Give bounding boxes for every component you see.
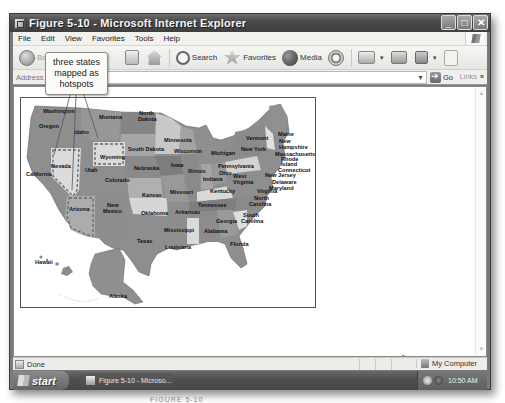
status-text: Done <box>27 360 45 369</box>
taskbar-item-ie[interactable]: Figure 5-10 - Microso... <box>81 373 173 388</box>
svg-text:Nebraska: Nebraska <box>134 165 160 171</box>
figure-caption: FIGURE 5-10 <box>150 396 203 403</box>
address-input[interactable]: ▼ <box>55 71 427 84</box>
page-done-icon <box>15 360 24 369</box>
scroll-down-icon[interactable]: ▼ <box>477 345 486 354</box>
svg-text:Hampshire: Hampshire <box>279 144 308 150</box>
svg-text:Illinois: Illinois <box>188 168 206 174</box>
print-button[interactable] <box>391 51 409 64</box>
svg-text:Nevada: Nevada <box>51 163 72 169</box>
chevron-down-icon: ▼ <box>379 55 385 61</box>
svg-text:Mississippi: Mississippi <box>164 227 195 233</box>
menu-tools[interactable]: Tools <box>130 34 159 43</box>
menu-view[interactable]: View <box>60 34 87 43</box>
chevron-down-icon[interactable]: ▼ <box>416 73 425 82</box>
svg-text:Arkansas: Arkansas <box>175 209 200 215</box>
taskbar-item-label: Figure 5-10 - Microso... <box>99 377 171 384</box>
svg-text:Missouri: Missouri <box>170 189 193 195</box>
tray-expand-icon[interactable] <box>423 376 432 385</box>
svg-text:Carolina: Carolina <box>241 218 264 224</box>
computer-icon <box>421 359 429 368</box>
volume-icon[interactable] <box>434 376 443 385</box>
print-icon <box>391 51 407 64</box>
links-button[interactable]: Links» <box>460 72 484 81</box>
windows-logo-icon <box>465 32 485 45</box>
ie-page-icon <box>14 18 25 29</box>
ie-page-icon <box>86 376 95 385</box>
svg-text:Alaska: Alaska <box>109 293 128 299</box>
menu-file[interactable]: File <box>13 34 36 43</box>
close-button[interactable]: ✕ <box>473 15 488 30</box>
svg-text:Louisiana: Louisiana <box>165 244 192 250</box>
refresh-icon <box>125 50 139 65</box>
refresh-button[interactable] <box>125 50 141 65</box>
svg-text:Georgia: Georgia <box>216 218 238 224</box>
toolbar-separator <box>351 49 352 67</box>
window-controls: _ □ ✕ <box>441 15 488 30</box>
history-button[interactable] <box>328 50 346 66</box>
system-tray: 10:50 AM <box>417 371 487 390</box>
state-hawaii <box>61 266 73 276</box>
search-label: Search <box>192 53 217 62</box>
svg-text:New York: New York <box>241 146 267 152</box>
maximize-button[interactable]: □ <box>457 15 472 30</box>
favorites-label: Favorites <box>243 53 276 62</box>
svg-text:Carolina: Carolina <box>249 201 272 207</box>
svg-text:Dakota: Dakota <box>138 116 158 122</box>
home-button[interactable] <box>147 50 164 65</box>
security-zone: My Computer <box>416 359 477 368</box>
us-map-image: Washington Oregon Idaho Montana North Da… <box>20 97 316 308</box>
svg-text:Ohio: Ohio <box>219 170 232 176</box>
svg-text:Alabama: Alabama <box>204 228 228 234</box>
edit-button[interactable]: ▼ <box>415 51 438 64</box>
svg-text:Colorado: Colorado <box>105 177 130 183</box>
go-button[interactable]: Go <box>430 72 453 83</box>
vertical-scrollbar[interactable]: ▲ ▼ <box>475 87 486 356</box>
back-icon <box>19 50 35 66</box>
messenger-button[interactable] <box>444 50 460 66</box>
search-icon <box>176 51 190 65</box>
links-label: Links <box>460 72 478 81</box>
edit-icon <box>415 51 428 64</box>
svg-text:Washington: Washington <box>43 108 75 114</box>
mail-button[interactable]: ▼ <box>358 51 385 64</box>
title-bar[interactable]: Figure 5-10 - Microsoft Internet Explore… <box>10 14 490 32</box>
scroll-up-icon[interactable]: ▲ <box>477 89 486 98</box>
minimize-button[interactable]: _ <box>441 15 456 30</box>
status-panes <box>359 359 407 370</box>
svg-text:Kansas: Kansas <box>142 192 162 198</box>
windows-flag-icon <box>17 375 30 386</box>
mail-icon <box>358 51 375 64</box>
media-label: Media <box>300 53 322 62</box>
chevron-right-icon: » <box>480 73 484 80</box>
svg-text:Tennessee: Tennessee <box>198 202 227 208</box>
go-label: Go <box>443 73 453 82</box>
history-icon <box>328 50 344 66</box>
svg-text:Maryland: Maryland <box>269 185 294 191</box>
svg-text:Texas: Texas <box>137 238 152 244</box>
menu-edit[interactable]: Edit <box>36 34 60 43</box>
state-alabama <box>199 212 217 242</box>
svg-text:Pennsylvania: Pennsylvania <box>218 163 255 169</box>
svg-text:Arizona: Arizona <box>69 206 90 212</box>
menu-favorites[interactable]: Favorites <box>87 34 130 43</box>
callout-line-3: hotspots <box>46 79 107 90</box>
svg-text:Michigan: Michigan <box>211 150 236 156</box>
menu-help[interactable]: Help <box>158 34 184 43</box>
screen: Figure 5-10 - Microsoft Internet Explore… <box>0 0 505 403</box>
search-button[interactable]: Search <box>176 51 217 65</box>
svg-text:Iowa: Iowa <box>171 162 184 168</box>
start-button[interactable]: start <box>13 371 69 390</box>
svg-text:Florida: Florida <box>230 241 250 247</box>
hawaii-island <box>55 262 59 266</box>
favorites-button[interactable]: Favorites <box>223 49 276 66</box>
media-button[interactable]: Media <box>282 50 322 66</box>
svg-text:Kentucky: Kentucky <box>210 188 236 194</box>
svg-text:Minnesota: Minnesota <box>164 137 193 143</box>
home-icon <box>147 50 162 65</box>
svg-text:Utah: Utah <box>85 167 98 173</box>
toolbar-separator <box>169 49 170 67</box>
clock: 10:50 AM <box>448 377 478 384</box>
svg-text:Oklahoma: Oklahoma <box>141 210 169 216</box>
svg-text:Montana: Montana <box>99 114 123 120</box>
